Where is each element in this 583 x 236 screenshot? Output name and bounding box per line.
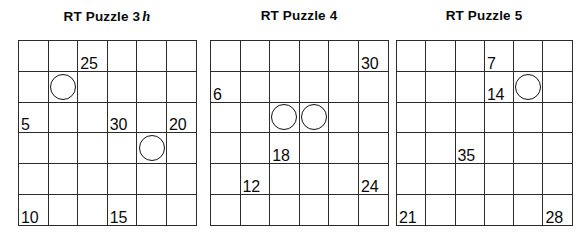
grid-cell[interactable] xyxy=(359,103,389,134)
grid-cell[interactable] xyxy=(300,164,330,195)
grid-cell[interactable] xyxy=(329,103,359,134)
grid-cell[interactable]: 24 xyxy=(359,164,389,195)
grid-cell[interactable] xyxy=(137,103,167,134)
grid-cell[interactable]: 10 xyxy=(19,195,49,226)
grid-cell[interactable] xyxy=(211,164,241,195)
grid-cell[interactable]: 14 xyxy=(485,72,514,103)
grid-cell[interactable] xyxy=(329,41,359,72)
grid-cell[interactable] xyxy=(426,103,455,134)
grid-cell[interactable] xyxy=(78,72,108,103)
grid-cell[interactable] xyxy=(397,41,426,72)
grid-cell[interactable] xyxy=(108,72,138,103)
grid-cell[interactable] xyxy=(167,164,197,195)
grid-cell[interactable] xyxy=(300,103,330,134)
grid-cell[interactable] xyxy=(426,72,455,103)
grid-cell[interactable] xyxy=(49,103,79,134)
grid-cell[interactable] xyxy=(241,195,271,226)
grid-cell[interactable] xyxy=(49,195,79,226)
grid-cell[interactable]: 25 xyxy=(78,41,108,72)
grid-cell[interactable]: 28 xyxy=(543,195,572,226)
grid-cell[interactable] xyxy=(456,41,485,72)
grid-cell[interactable] xyxy=(485,133,514,164)
grid-cell[interactable] xyxy=(137,72,167,103)
grid-cell[interactable] xyxy=(19,133,49,164)
grid-cell[interactable]: 30 xyxy=(359,41,389,72)
grid-cell[interactable] xyxy=(211,195,241,226)
grid-cell[interactable] xyxy=(49,164,79,195)
grid-cell[interactable] xyxy=(485,195,514,226)
grid-cell[interactable] xyxy=(300,133,330,164)
grid-cell[interactable] xyxy=(78,103,108,134)
grid-cell[interactable] xyxy=(485,103,514,134)
grid-cell[interactable]: 21 xyxy=(397,195,426,226)
grid-cell[interactable] xyxy=(211,133,241,164)
grid-cell[interactable] xyxy=(241,103,271,134)
grid-cell[interactable] xyxy=(78,164,108,195)
grid-cell[interactable] xyxy=(426,41,455,72)
grid-cell[interactable] xyxy=(270,164,300,195)
grid-cell[interactable] xyxy=(19,72,49,103)
grid-cell[interactable] xyxy=(514,195,543,226)
grid-cell[interactable] xyxy=(543,41,572,72)
grid-cell[interactable] xyxy=(456,72,485,103)
grid-cell[interactable] xyxy=(456,103,485,134)
grid-cell[interactable] xyxy=(137,41,167,72)
grid-cell[interactable]: 15 xyxy=(108,195,138,226)
grid-cell[interactable] xyxy=(426,195,455,226)
grid-cell[interactable]: 7 xyxy=(485,41,514,72)
grid-cell[interactable] xyxy=(211,103,241,134)
grid-cell[interactable]: 18 xyxy=(270,133,300,164)
grid-cell[interactable] xyxy=(543,164,572,195)
grid-cell[interactable] xyxy=(211,41,241,72)
grid-cell[interactable] xyxy=(167,195,197,226)
grid-cell[interactable] xyxy=(108,133,138,164)
grid-cell[interactable] xyxy=(514,41,543,72)
grid-cell[interactable] xyxy=(108,41,138,72)
grid-cell[interactable] xyxy=(514,133,543,164)
grid-cell[interactable] xyxy=(543,103,572,134)
grid-cell[interactable] xyxy=(397,133,426,164)
grid-cell[interactable] xyxy=(167,72,197,103)
grid-cell[interactable] xyxy=(329,195,359,226)
grid-cell[interactable] xyxy=(514,164,543,195)
grid-cell[interactable] xyxy=(78,133,108,164)
grid-cell[interactable] xyxy=(543,133,572,164)
grid-cell[interactable] xyxy=(329,164,359,195)
grid-cell[interactable]: 12 xyxy=(241,164,271,195)
grid-cell[interactable] xyxy=(426,133,455,164)
grid-cell[interactable] xyxy=(137,164,167,195)
grid-cell[interactable] xyxy=(300,195,330,226)
grid-cell[interactable] xyxy=(543,72,572,103)
grid-cell[interactable] xyxy=(485,164,514,195)
grid-cell[interactable] xyxy=(19,164,49,195)
grid-cell[interactable] xyxy=(270,103,300,134)
grid-cell[interactable]: 5 xyxy=(19,103,49,134)
grid-cell[interactable] xyxy=(397,164,426,195)
grid-cell[interactable] xyxy=(456,195,485,226)
grid-cell[interactable] xyxy=(359,133,389,164)
grid-cell[interactable] xyxy=(167,41,197,72)
grid-cell[interactable] xyxy=(359,72,389,103)
grid-cell[interactable] xyxy=(397,72,426,103)
grid-cell[interactable] xyxy=(270,72,300,103)
grid-cell[interactable] xyxy=(49,41,79,72)
grid-cell[interactable]: 30 xyxy=(108,103,138,134)
grid-cell[interactable] xyxy=(108,164,138,195)
grid-cell[interactable] xyxy=(514,72,543,103)
grid-cell[interactable] xyxy=(137,133,167,164)
grid-cell[interactable] xyxy=(300,72,330,103)
grid-cell[interactable] xyxy=(456,164,485,195)
grid-cell[interactable] xyxy=(241,72,271,103)
grid-cell[interactable] xyxy=(514,103,543,134)
grid-cell[interactable]: 6 xyxy=(211,72,241,103)
grid-cell[interactable] xyxy=(78,195,108,226)
grid-cell[interactable] xyxy=(270,41,300,72)
grid-cell[interactable]: 20 xyxy=(167,103,197,134)
grid-cell[interactable] xyxy=(49,72,79,103)
grid-cell[interactable] xyxy=(137,195,167,226)
grid-cell[interactable] xyxy=(49,133,79,164)
grid-cell[interactable] xyxy=(359,195,389,226)
grid-cell[interactable] xyxy=(329,133,359,164)
grid-cell[interactable] xyxy=(397,103,426,134)
grid-cell[interactable] xyxy=(300,41,330,72)
